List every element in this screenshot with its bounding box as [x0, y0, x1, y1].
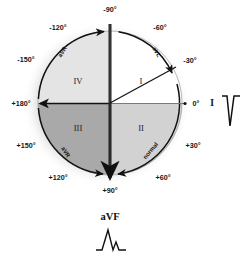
angle-label-minus-150: -150° — [17, 55, 34, 64]
angle-label-plus-120: +120° — [48, 173, 67, 182]
quadrant-label-iii: III — [74, 123, 83, 133]
angle-label-zero: 0° — [193, 99, 200, 108]
angle-label-minus-60: -60° — [153, 23, 166, 32]
angle-label-plus-180: +180° — [11, 99, 30, 108]
lead-avf-ecg-trace — [96, 230, 126, 250]
quadrant-label-i: I — [140, 76, 143, 86]
quadrant-label-iv: IV — [73, 76, 83, 86]
angle-label-plus-150: +150° — [16, 141, 35, 150]
lead-i-label: I — [210, 98, 214, 108]
axis-diagram-svg: -90° -60° -30° 0° +30° +60° +90° +120° +… — [0, 0, 244, 259]
horizontal-axis-endpoint-right — [183, 102, 186, 105]
angle-label-plus-60: +60° — [155, 173, 170, 182]
angle-label-minus-120: -120° — [49, 23, 66, 32]
lead-i-ecg-trace — [222, 96, 240, 126]
angle-label-minus-30: -30° — [183, 56, 196, 65]
lead-avf-label: aVF — [100, 211, 119, 222]
angle-label-plus-30: +30° — [185, 141, 200, 150]
cardiac-axis-diagram: -90° -60° -30° 0° +30° +60° +90° +120° +… — [0, 0, 244, 259]
angle-label-plus-90: +90° — [102, 186, 117, 195]
angle-label-minus-90: -90° — [103, 5, 116, 14]
quadrant-label-ii: II — [138, 123, 144, 133]
